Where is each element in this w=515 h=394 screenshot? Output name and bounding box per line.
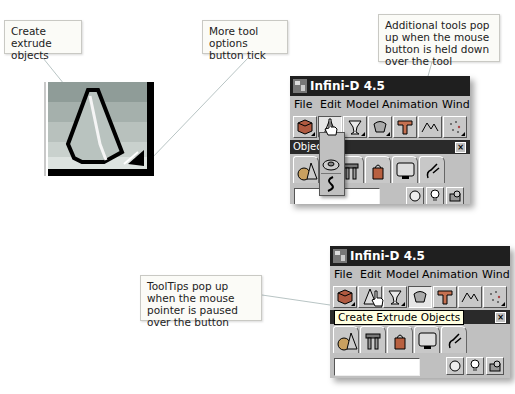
menu-bar: File Edit Model Animation Wind — [290, 96, 470, 114]
objects-palette-titlebar: Objec × — [290, 140, 470, 154]
additional-tools-popup — [319, 132, 345, 196]
menu-animation[interactable]: Animation — [382, 96, 438, 114]
particles-tool-button[interactable] — [483, 286, 507, 308]
extrude-t-tool-button[interactable] — [433, 286, 457, 308]
title-bar: Infini-D 4.5 — [330, 246, 510, 266]
primitives-icon — [336, 330, 358, 352]
bulb-button[interactable] — [466, 357, 484, 375]
title-bar: Infini-D 4.5 — [290, 76, 470, 96]
primitives-icon — [296, 160, 318, 182]
tab-monitor[interactable] — [414, 326, 440, 353]
particles-tool-button[interactable] — [443, 116, 467, 138]
app-icon — [292, 78, 308, 94]
callout-more-tool-options: More tool options button tick — [202, 20, 288, 54]
palette-close-button[interactable]: × — [495, 312, 506, 323]
camera-icon — [488, 359, 502, 373]
plug-icon — [422, 160, 444, 182]
window-title: Infini-D 4.5 — [350, 246, 425, 266]
lathe-tool-button[interactable] — [343, 116, 367, 138]
terrain-icon — [411, 288, 429, 306]
tooltip: Create Extrude Objects — [334, 310, 464, 325]
popup-tool-spring[interactable] — [321, 175, 341, 193]
toolbar — [290, 114, 470, 140]
menu-model[interactable]: Model — [386, 266, 419, 284]
terrain-tool-button[interactable] — [368, 116, 392, 138]
menu-file[interactable]: File — [334, 266, 352, 284]
status-row — [330, 354, 510, 378]
app-icon — [332, 248, 348, 264]
palette-title: Objec — [293, 140, 322, 154]
cube-tool-button[interactable] — [333, 286, 357, 308]
toolbar — [330, 284, 510, 310]
app-window-tooltip-example: Infini-D 4.5 File Edit Model Animation W… — [330, 246, 510, 378]
torus-icon — [321, 155, 341, 173]
mountain-icon — [461, 288, 479, 306]
menu-window[interactable]: Wind — [442, 96, 470, 114]
cube-tool-button[interactable] — [293, 116, 317, 138]
object-name-field[interactable] — [334, 358, 420, 376]
light-button[interactable] — [406, 187, 424, 204]
hand-cursor-icon — [321, 117, 343, 137]
window-title: Infini-D 4.5 — [310, 76, 385, 96]
menu-model[interactable]: Model — [346, 96, 379, 114]
palette-tabs — [330, 324, 510, 354]
bulb-button[interactable] — [426, 187, 444, 204]
teapot-icon — [390, 330, 412, 352]
light-button[interactable] — [446, 357, 464, 375]
monitor-icon — [395, 160, 417, 182]
extrude-t-tool-button[interactable] — [393, 116, 417, 138]
tools-icon — [363, 330, 385, 352]
menu-edit[interactable]: Edit — [360, 266, 381, 284]
plug-icon — [444, 330, 466, 352]
menu-window[interactable]: Wind — [482, 266, 510, 284]
magnified-extrude-tool-icon — [44, 82, 156, 182]
app-window-popup-example: Infini-D 4.5 File Edit Model Animation W… — [290, 76, 470, 204]
menu-edit[interactable]: Edit — [320, 96, 341, 114]
monitor-icon — [417, 330, 439, 352]
spring-icon — [321, 175, 341, 193]
light-bulb-icon — [468, 359, 482, 373]
tab-plug[interactable] — [441, 326, 467, 353]
menu-bar: File Edit Model Animation Wind — [330, 266, 510, 284]
lathe-tool-button[interactable] — [383, 286, 407, 308]
mountain-tool-button[interactable] — [418, 116, 442, 138]
camera-icon — [448, 189, 462, 203]
mountain-tool-button[interactable] — [458, 286, 482, 308]
menu-animation[interactable]: Animation — [422, 266, 478, 284]
light-bulb-icon — [428, 189, 442, 203]
callout-create-extrude: Create extrude objects — [4, 20, 82, 54]
callout-additional-tools: Additional tools pop up when the mouse b… — [378, 14, 500, 62]
light-bulb-circle-icon — [408, 189, 422, 203]
status-row — [290, 184, 470, 204]
tab-plug[interactable] — [419, 156, 445, 183]
tab-monitor[interactable] — [392, 156, 418, 183]
terrain-tool-button[interactable] — [408, 286, 432, 308]
light-bulb-circle-icon — [448, 359, 462, 373]
tab-teapot[interactable] — [387, 326, 413, 353]
camera-button[interactable] — [446, 187, 464, 204]
tab-primitives[interactable] — [333, 326, 359, 353]
tab-teapot[interactable] — [365, 156, 391, 183]
palette-tabs — [290, 154, 470, 184]
extrude-t-icon — [396, 118, 414, 136]
tab-primitives[interactable] — [293, 156, 319, 183]
camera-button[interactable] — [486, 357, 504, 375]
hand-cursor-icon — [370, 290, 386, 308]
palette-close-button[interactable]: × — [455, 142, 466, 153]
popup-tool-torus[interactable] — [321, 155, 341, 174]
callout-tooltips: ToolTips pop up when the mouse pointer i… — [140, 275, 262, 321]
tab-tools[interactable] — [360, 326, 386, 353]
extrude-t-icon — [436, 288, 454, 306]
mountain-icon — [421, 118, 439, 136]
menu-file[interactable]: File — [294, 96, 312, 114]
teapot-icon — [368, 160, 390, 182]
